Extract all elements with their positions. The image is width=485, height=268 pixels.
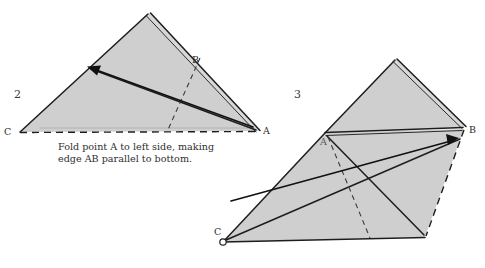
figure-3-step-number: 3 [294,88,301,101]
figure-2-paper-face [20,14,258,132]
figure-3-label-A: A [319,136,327,147]
figure-3-upper-face [325,60,464,133]
figure-2-label-C: C [4,126,11,137]
figure-3-label-C: C [214,226,221,237]
figure-canvas: C A B 2 [0,0,485,268]
figure-2-group: C A B 2 [4,13,270,137]
figure-2-caption-line-1: Fold point A to left side, making [58,141,258,153]
figure-2-caption-line-2: edge AB parallel to bottom. [58,153,258,165]
figure-2-step-number: 2 [14,88,21,101]
figure-2-label-A: A [262,125,270,136]
figure-2-label-B: B [192,54,199,65]
figure-3-vertex-marker-C [220,239,226,245]
figure-2-caption: Fold point A to left side, making edge A… [58,141,258,165]
figure-3-label-B: B [469,124,476,135]
